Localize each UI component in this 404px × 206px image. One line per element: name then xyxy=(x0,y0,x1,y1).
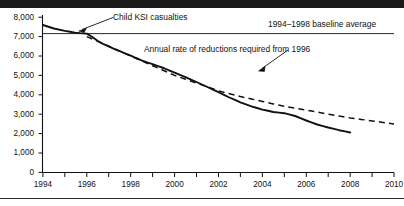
y-tick-label-1000: 1,000 xyxy=(0,148,34,157)
x-tick-label-2006: 2006 xyxy=(286,180,326,189)
y-tick-label-7000: 7,000 xyxy=(0,32,34,41)
y-tick-label-4000: 4,000 xyxy=(0,90,34,99)
annotation-annual-rate-of-reductions: Annual rate of reductions required from … xyxy=(144,45,310,54)
chart-plot-area xyxy=(0,0,404,206)
y-tick-label-3000: 3,000 xyxy=(0,110,34,119)
x-tick-label-2000: 2000 xyxy=(155,180,195,189)
y-tick-label-5000: 5,000 xyxy=(0,71,34,80)
y-tick-label-8000: 8,000 xyxy=(0,13,34,22)
series-child-ksi xyxy=(43,25,350,133)
x-axis-ticks xyxy=(43,173,394,178)
x-tick-label-2002: 2002 xyxy=(199,180,239,189)
x-tick-label-1996: 1996 xyxy=(67,180,107,189)
x-tick-label-1994: 1994 xyxy=(23,180,63,189)
x-tick-label-2004: 2004 xyxy=(242,180,282,189)
annotation-baseline-average: 1994–1998 baseline average xyxy=(268,20,376,29)
annotation-child-ksi-casualties: Child KSI casualties xyxy=(113,13,187,22)
y-axis-ticks xyxy=(39,17,43,172)
chart-figure: 8,000 7,000 6,000 5,000 4,000 3,000 2,00… xyxy=(0,0,404,206)
annotation-leader-child-ksi xyxy=(79,18,113,33)
x-tick-label-2008: 2008 xyxy=(330,180,370,189)
y-tick-label-6000: 6,000 xyxy=(0,51,34,60)
bottom-divider-rule xyxy=(0,198,404,199)
x-tick-label-2010: 2010 xyxy=(374,180,404,189)
x-tick-label-1998: 1998 xyxy=(111,180,151,189)
y-tick-label-0: 0 xyxy=(0,168,34,177)
y-tick-label-2000: 2,000 xyxy=(0,129,34,138)
